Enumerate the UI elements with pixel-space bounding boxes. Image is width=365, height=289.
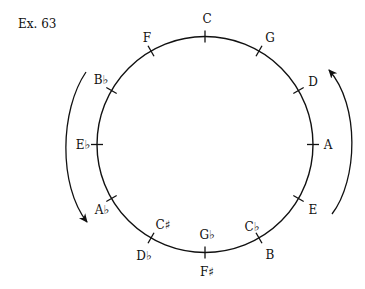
tick-d bbox=[293, 88, 303, 94]
circle-of-fifths-diagram: Ex. 63 C G D A bbox=[0, 0, 365, 289]
note-label-eflat: E♭ bbox=[76, 139, 90, 151]
tick-b bbox=[256, 233, 262, 243]
note-label-cflat: C♭ bbox=[245, 221, 260, 233]
note-label-g: G bbox=[265, 32, 275, 44]
note-label-e: E bbox=[309, 204, 318, 216]
note-label-c: C bbox=[202, 13, 211, 25]
note-label-fsharp: F♯ bbox=[200, 266, 214, 278]
tick-marks bbox=[91, 31, 319, 259]
note-label-b: B bbox=[266, 249, 275, 261]
tick-f bbox=[148, 46, 154, 56]
tick-dflat bbox=[148, 233, 154, 243]
tick-e bbox=[293, 196, 303, 202]
note-label-gflat: G♭ bbox=[199, 229, 214, 241]
note-label-aflat: A♭ bbox=[95, 204, 109, 216]
note-label-d: D bbox=[308, 76, 318, 88]
tick-aflat bbox=[106, 196, 116, 202]
note-label-bflat: B♭ bbox=[94, 74, 108, 86]
note-label-dflat: D♭ bbox=[136, 250, 151, 262]
note-label-a: A bbox=[324, 139, 333, 151]
main-circle bbox=[97, 37, 313, 253]
diagram-graphics bbox=[0, 0, 365, 289]
note-label-f: F bbox=[143, 32, 151, 44]
note-label-csharp: C♯ bbox=[156, 219, 171, 231]
tick-bflat bbox=[106, 88, 116, 94]
tick-g bbox=[256, 46, 262, 56]
